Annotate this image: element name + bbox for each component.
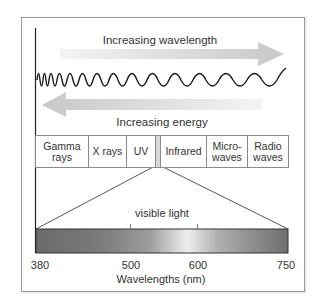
band-label: Infrared bbox=[165, 146, 201, 157]
expansion-line-left bbox=[36, 166, 155, 229]
band-label: Micro- bbox=[212, 141, 242, 152]
band-radio-waves: Radiowaves bbox=[247, 136, 288, 167]
band-x-rays: X rays bbox=[88, 136, 126, 167]
expansion-line-right bbox=[161, 166, 288, 229]
band-label: Radio bbox=[253, 141, 283, 152]
band-uv: UV bbox=[126, 136, 155, 167]
tick-label-500: 500 bbox=[122, 259, 140, 271]
band-label: Gamma bbox=[43, 141, 80, 152]
visible-light-label: visible light bbox=[135, 207, 189, 219]
band-label: waves bbox=[253, 152, 283, 163]
band-infrared: Infrared bbox=[160, 136, 206, 167]
tick-label-600: 600 bbox=[189, 259, 207, 271]
spectrum-bands: Gammarays X rays UV Infrared Micro-waves… bbox=[35, 135, 289, 168]
axis-label: Wavelengths (nm) bbox=[117, 273, 206, 285]
band-label: rays bbox=[43, 152, 80, 163]
band-label: X rays bbox=[93, 146, 123, 157]
wave-line bbox=[37, 68, 286, 86]
energy-arrow bbox=[42, 92, 262, 117]
tick-label-750: 750 bbox=[277, 259, 295, 271]
band-gamma-rays: Gammarays bbox=[35, 136, 88, 167]
wavelength-label: Increasing wavelength bbox=[103, 34, 217, 46]
energy-label: Increasing energy bbox=[116, 116, 207, 128]
band-microwaves: Micro-waves bbox=[206, 136, 247, 167]
band-label: waves bbox=[212, 152, 242, 163]
visible-spectrum-bar bbox=[36, 229, 288, 253]
tick-label-380: 380 bbox=[31, 259, 49, 271]
band-label: UV bbox=[134, 146, 149, 157]
